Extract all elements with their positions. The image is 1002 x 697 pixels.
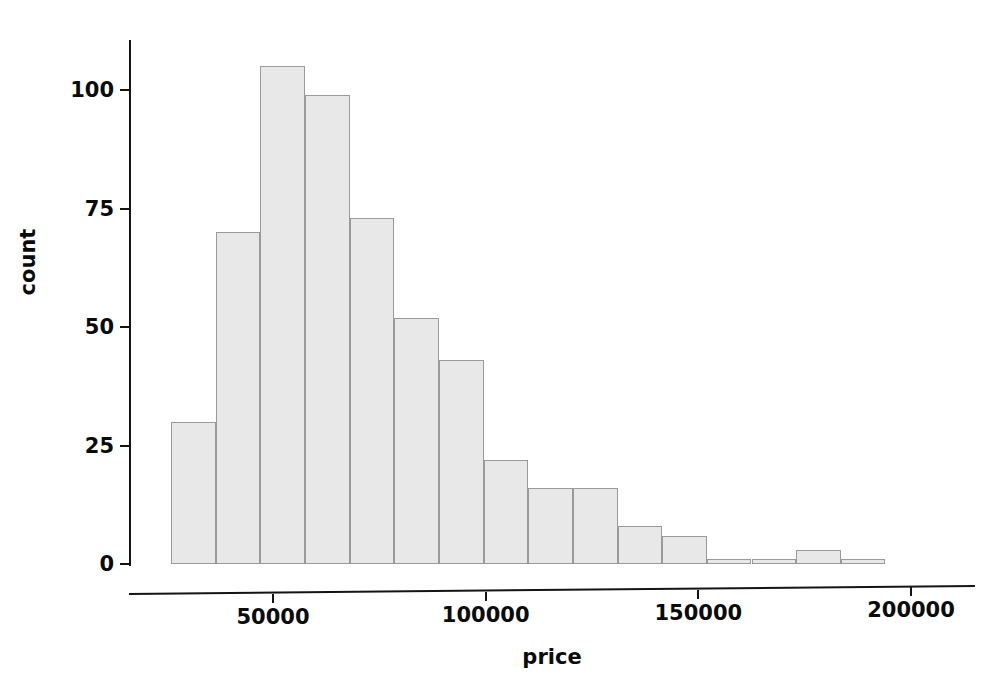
x-tick-mark: [697, 590, 699, 599]
y-tick-label: 75: [85, 197, 114, 221]
histogram-bar: [796, 550, 841, 564]
y-tick-mark: [120, 563, 129, 565]
histogram-bar: [618, 526, 663, 564]
x-tick-label: 100000: [442, 603, 530, 627]
x-tick-label: 150000: [654, 601, 742, 625]
histogram-bar: [573, 488, 618, 564]
x-axis-title: price: [522, 645, 581, 669]
y-tick-mark: [120, 208, 129, 210]
histogram-figure: 0255075100 50000100000150000200000 count…: [0, 0, 1002, 697]
y-tick-mark: [120, 89, 129, 91]
x-tick-label: 50000: [236, 605, 309, 629]
histogram-bar: [439, 360, 484, 564]
histogram-bar: [394, 318, 439, 564]
histogram-bar: [528, 488, 573, 564]
histogram-bar: [305, 95, 350, 564]
y-tick-label: 50: [85, 315, 114, 339]
y-tick-label: 0: [99, 552, 114, 576]
histogram-bar: [662, 536, 707, 564]
y-tick-mark: [120, 445, 129, 447]
x-tick-mark: [910, 587, 912, 596]
histogram-bar: [350, 218, 395, 564]
histogram-bar: [841, 559, 886, 564]
histogram-bar: [260, 66, 305, 564]
y-axis-title: count: [16, 229, 40, 296]
histogram-bar: [171, 422, 216, 564]
histogram-bar: [752, 559, 797, 564]
y-tick-label: 100: [70, 78, 114, 102]
x-tick-mark: [272, 594, 274, 603]
histogram-bar: [707, 559, 752, 564]
histogram-bar: [216, 232, 261, 564]
x-axis-line: [129, 585, 975, 595]
x-tick-label: 200000: [867, 598, 955, 622]
histogram-bar: [484, 460, 529, 564]
y-axis-line: [129, 40, 131, 566]
x-tick-mark: [485, 592, 487, 601]
y-tick-mark: [120, 326, 129, 328]
y-tick-label: 25: [85, 434, 114, 458]
